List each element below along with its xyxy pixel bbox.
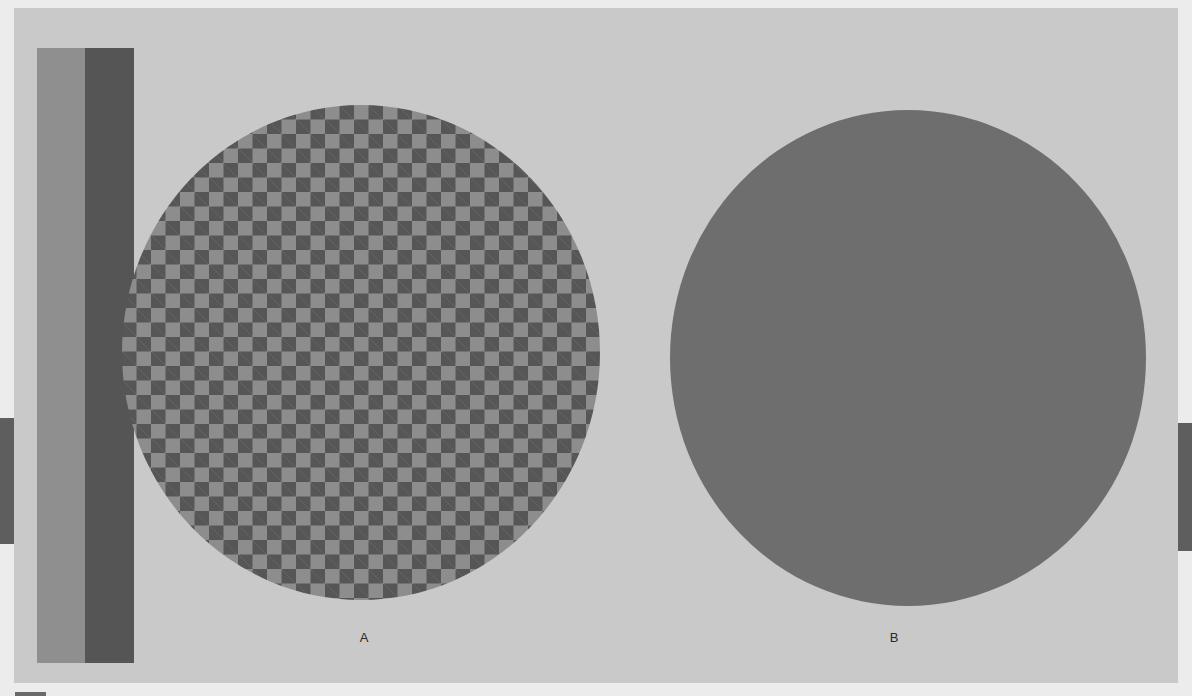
light-gray-bar — [37, 48, 85, 663]
right-edge-strip — [1178, 423, 1192, 551]
solid-circle-b — [670, 110, 1146, 606]
corner-square — [15, 692, 46, 696]
figure-page: A B — [0, 0, 1192, 696]
checkerboard-circle-a — [122, 105, 600, 600]
label-a: A — [354, 630, 374, 645]
label-b: B — [884, 630, 904, 645]
left-edge-strip — [0, 418, 15, 544]
